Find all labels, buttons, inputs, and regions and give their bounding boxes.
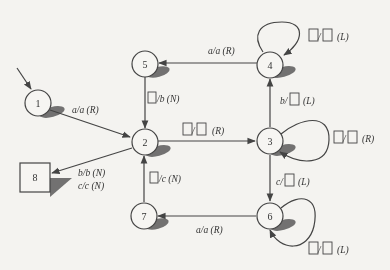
blank-symbol-icon	[150, 172, 158, 183]
slash: /	[317, 245, 322, 255]
label-5-2: /b (N)	[156, 94, 179, 105]
label-2-3-dir: (R)	[212, 126, 224, 137]
label-2-8-line1: b/b (N)	[78, 168, 105, 179]
label-1-2: a/a (R)	[72, 105, 99, 116]
state-7-label: 7	[142, 211, 147, 222]
edge-4-4	[258, 22, 300, 55]
states	[20, 51, 283, 229]
blank-symbol-icon	[285, 174, 294, 186]
blank-symbol-icon	[309, 29, 318, 41]
state-6-label: 6	[268, 211, 273, 222]
blank-symbol-icon	[334, 131, 343, 143]
label-4-5: a/a (R)	[208, 46, 235, 57]
blank-symbol-icon	[348, 131, 357, 143]
slash: /	[191, 126, 196, 136]
label-3-6-prefix: c/	[276, 177, 284, 187]
label-6-6-dir: (L)	[337, 245, 349, 256]
blank-symbol-icon	[197, 123, 206, 135]
state-5-label: 5	[143, 59, 148, 70]
label-2-8-line2: c/c (N)	[78, 181, 104, 192]
blank-symbol-icon	[148, 92, 156, 103]
slash: /	[317, 32, 322, 42]
label-3-4-prefix: b/	[280, 96, 289, 106]
label-6-7: a/a (R)	[196, 225, 223, 236]
edge-3-3	[280, 121, 329, 161]
blank-symbol-icon	[323, 29, 332, 41]
blank-symbol-icon	[323, 242, 332, 254]
initial-arrow	[17, 68, 31, 89]
diagram-canvas: 1 5 4 2 3 6 7 8 a/a (R) a/a (R) a/a (R) …	[0, 0, 390, 270]
blank-symbol-icon	[290, 93, 299, 105]
state-4-label: 4	[268, 60, 273, 71]
label-7-2: /c (N)	[158, 174, 181, 185]
state-diagram: 1 5 4 2 3 6 7 8 a/a (R) a/a (R) a/a (R) …	[0, 0, 390, 270]
blank-symbol-icon	[309, 242, 318, 254]
label-3-6-dir: (L)	[298, 177, 310, 188]
state-8-label: 8	[33, 172, 38, 183]
label-3-4-dir: (L)	[303, 96, 315, 107]
blank-symbol-icon	[183, 123, 192, 135]
state-2-label: 2	[143, 137, 148, 148]
label-4-4-dir: (L)	[337, 32, 349, 43]
label-3-3-dir: (R)	[362, 134, 374, 145]
slash: /	[342, 134, 347, 144]
state-1-label: 1	[36, 98, 41, 109]
state-3-label: 3	[268, 136, 273, 147]
state-shadows	[38, 64, 297, 233]
